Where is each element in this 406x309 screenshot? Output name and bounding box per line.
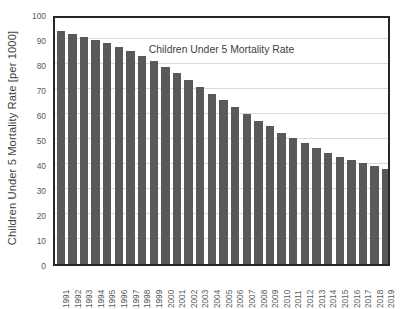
bar-series bbox=[55, 18, 388, 264]
x-axis-tick: 2001 bbox=[178, 268, 187, 308]
x-axis-tick: 2004 bbox=[213, 268, 222, 308]
x-axis-tick: 1999 bbox=[155, 268, 164, 308]
bar[interactable] bbox=[277, 133, 285, 265]
x-axis-tick: 2003 bbox=[201, 268, 210, 308]
x-axis-tick: 2015 bbox=[341, 268, 350, 308]
bar[interactable] bbox=[57, 31, 65, 265]
x-axis-tick: 2010 bbox=[283, 268, 292, 308]
y-axis-title-text: Children Under 5 Mortality Rate [per 100… bbox=[6, 30, 18, 244]
bar[interactable] bbox=[243, 114, 251, 264]
y-axis-tick: 20 bbox=[37, 211, 46, 221]
x-axis-tick: 2009 bbox=[271, 268, 280, 308]
bar[interactable] bbox=[219, 100, 227, 264]
bar[interactable] bbox=[115, 47, 123, 264]
y-axis-tick: 10 bbox=[37, 236, 46, 246]
bar[interactable] bbox=[312, 148, 320, 264]
bar[interactable] bbox=[138, 56, 146, 264]
x-axis-tick: 2005 bbox=[225, 268, 234, 308]
x-axis-tick: 2007 bbox=[248, 268, 257, 308]
y-axis-tick-labels: 0102030405060708090100 bbox=[24, 16, 50, 266]
bar[interactable] bbox=[301, 143, 309, 264]
y-axis-tick: 0 bbox=[41, 261, 46, 271]
x-axis-tick: 1993 bbox=[85, 268, 94, 308]
bar[interactable] bbox=[324, 153, 332, 265]
bar[interactable] bbox=[161, 67, 169, 264]
bar[interactable] bbox=[289, 138, 297, 265]
y-axis-title: Children Under 5 Mortality Rate [per 100… bbox=[0, 0, 24, 275]
x-axis-tick-labels: 1991199219931994199519961997199819992000… bbox=[53, 268, 390, 309]
bar[interactable] bbox=[208, 94, 216, 265]
bar[interactable] bbox=[336, 157, 344, 265]
x-axis-tick: 2006 bbox=[236, 268, 245, 308]
y-axis-tick: 90 bbox=[37, 36, 46, 46]
bar[interactable] bbox=[231, 107, 239, 264]
x-axis-tick: 2002 bbox=[190, 268, 199, 308]
x-axis-tick: 2012 bbox=[306, 268, 315, 308]
x-axis-tick: 2018 bbox=[376, 268, 385, 308]
bar[interactable] bbox=[150, 61, 158, 264]
bar[interactable] bbox=[347, 160, 355, 264]
y-axis-tick: 80 bbox=[37, 61, 46, 71]
x-axis-tick: 2008 bbox=[260, 268, 269, 308]
x-axis-tick: 2014 bbox=[329, 268, 338, 308]
bar[interactable] bbox=[68, 34, 76, 264]
chart-figure: Children Under 5 Mortality Rate [per 100… bbox=[0, 0, 406, 309]
x-axis-tick: 2017 bbox=[364, 268, 373, 308]
x-axis-tick: 2016 bbox=[353, 268, 362, 308]
bar[interactable] bbox=[196, 87, 204, 264]
y-axis-tick: 100 bbox=[32, 11, 46, 21]
bar[interactable] bbox=[184, 80, 192, 264]
x-axis-tick: 2013 bbox=[318, 268, 327, 308]
x-axis-tick: 1996 bbox=[120, 268, 129, 308]
bar[interactable] bbox=[126, 51, 134, 264]
bar[interactable] bbox=[359, 163, 367, 264]
y-axis-tick: 60 bbox=[37, 111, 46, 121]
x-axis-tick: 2000 bbox=[167, 268, 176, 308]
bar[interactable] bbox=[266, 126, 274, 264]
x-axis-tick: 1997 bbox=[132, 268, 141, 308]
x-axis-tick: 1998 bbox=[143, 268, 152, 308]
plot-area: Children Under 5 Mortality Rate bbox=[53, 16, 390, 266]
x-axis-tick: 1995 bbox=[108, 268, 117, 308]
y-axis-tick: 50 bbox=[37, 136, 46, 146]
x-axis-tick: 1992 bbox=[74, 268, 83, 308]
x-axis-tick: 2011 bbox=[294, 268, 303, 308]
bar[interactable] bbox=[254, 121, 262, 265]
bar[interactable] bbox=[80, 37, 88, 264]
y-axis-tick: 30 bbox=[37, 186, 46, 196]
y-axis-tick: 70 bbox=[37, 86, 46, 96]
x-axis-tick: 1991 bbox=[62, 268, 71, 308]
bar[interactable] bbox=[173, 73, 181, 264]
y-axis-tick: 40 bbox=[37, 161, 46, 171]
bar[interactable] bbox=[91, 40, 99, 264]
x-axis-tick: 2019 bbox=[387, 268, 396, 308]
x-axis-tick: 1994 bbox=[97, 268, 106, 308]
bar[interactable] bbox=[370, 166, 378, 264]
bar[interactable] bbox=[382, 169, 390, 264]
bar[interactable] bbox=[103, 43, 111, 264]
